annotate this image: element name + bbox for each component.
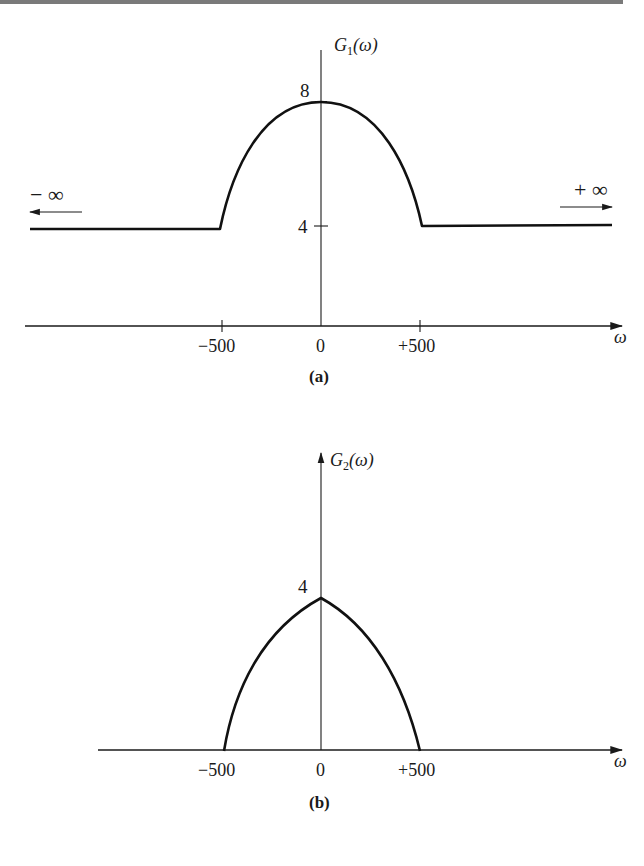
x-tick-label-0-a: 0 [316, 336, 325, 356]
x-tick-label-pos500-b: +500 [398, 760, 435, 780]
y-axis-label-a: G1(ω) [334, 35, 378, 58]
y-axis-label-b: G2(ω) [330, 450, 374, 473]
y-tick-label-8-a: 8 [300, 80, 310, 101]
pos-infinity-label: + ∞ [574, 177, 608, 202]
neg-infinity-label: − ∞ [30, 182, 64, 207]
x-tick-label-0-b: 0 [316, 760, 325, 780]
y-tick-label-4-a: 4 [298, 216, 308, 237]
y-tick-label-4-b: 4 [298, 576, 308, 597]
panel-b: 4 −500 0 +500 ω G2(ω) (b) [98, 450, 627, 812]
x-axis-label-b: ω [614, 751, 627, 771]
g2-curve [224, 598, 420, 751]
caption-a: (a) [309, 367, 329, 386]
caption-b: (b) [309, 793, 330, 812]
x-axis-label-a: ω [614, 327, 627, 347]
x-tick-label-neg500-b: −500 [198, 760, 235, 780]
x-tick-label-pos500-a: +500 [398, 336, 435, 356]
x-tick-label-neg500-a: −500 [198, 336, 235, 356]
figure-canvas: − ∞ + ∞ 8 4 −500 0 +500 ω G1(ω) (a) 4 −5… [0, 0, 644, 866]
panel-a: − ∞ + ∞ 8 4 −500 0 +500 ω G1(ω) (a) [25, 35, 627, 386]
